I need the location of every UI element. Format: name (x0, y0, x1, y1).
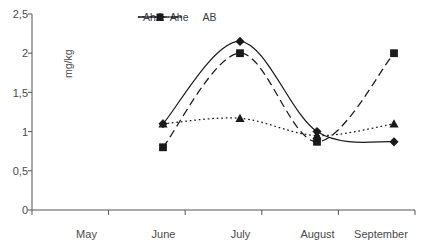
series-line-ab (163, 118, 394, 136)
data-point-ahe (236, 49, 244, 57)
data-point-ab (389, 119, 398, 127)
series-line-ah (163, 41, 394, 142)
plot-area (0, 0, 422, 251)
data-point-ab (235, 114, 244, 122)
data-point-ahe (159, 143, 167, 151)
line-chart: 2,5 2 1,5 1 0,5 0 mg/kg May June July Au… (0, 0, 422, 251)
data-point-ah (235, 37, 244, 46)
data-point-ah (389, 137, 398, 146)
series-line-ahe (163, 53, 394, 147)
data-point-ahe (390, 49, 398, 57)
